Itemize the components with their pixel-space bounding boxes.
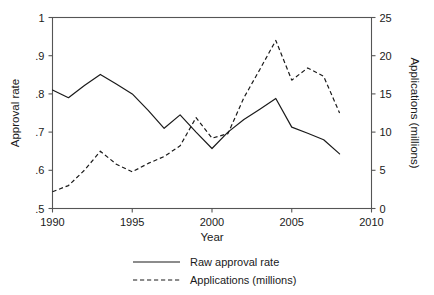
- legend-label-raw-approval-rate: Raw approval rate: [190, 256, 279, 268]
- y2-tick-label: 0: [380, 203, 386, 215]
- y2-tick-label: 15: [380, 88, 392, 100]
- y2-tick-label: 25: [380, 12, 392, 24]
- chart-figure: .5.6.7.8.91 0510152025 19901995200020052…: [0, 0, 434, 295]
- y2-axis-title: Applications (millions): [409, 57, 421, 168]
- x-tick-label: 1995: [120, 216, 144, 228]
- y2-tick-label: 5: [380, 164, 386, 176]
- y-axis-tick-labels: .5.6.7.8.91: [35, 12, 44, 215]
- line-chart: .5.6.7.8.91 0510152025 19901995200020052…: [0, 0, 434, 295]
- x-tick-label: 1990: [40, 216, 64, 228]
- y-tick-label: .6: [35, 164, 44, 176]
- y-tick-label: .9: [35, 50, 44, 62]
- y2-tick-label: 10: [380, 126, 392, 138]
- y2-axis-ticks: [372, 18, 376, 209]
- x-axis-title: Year: [200, 231, 223, 243]
- plot-frame: [53, 18, 372, 209]
- legend-label-applications: Applications (millions): [190, 274, 296, 286]
- x-tick-label: 2005: [280, 216, 304, 228]
- x-tick-label: 2000: [200, 216, 224, 228]
- x-axis-ticks: [53, 209, 372, 213]
- y-tick-label: .8: [35, 88, 44, 100]
- series-raw-approval-rate-line: [53, 74, 340, 153]
- y2-tick-label: 20: [380, 50, 392, 62]
- chart-legend: Raw approval rate Applications (millions…: [133, 256, 296, 286]
- y-tick-label: .7: [35, 126, 44, 138]
- x-axis-tick-labels: 19901995200020052010: [40, 216, 383, 228]
- y2-axis-tick-labels: 0510152025: [380, 12, 392, 215]
- y-tick-label: .5: [35, 203, 44, 215]
- y-axis-ticks: [49, 18, 53, 209]
- x-tick-label: 2010: [359, 216, 383, 228]
- y-tick-label: 1: [38, 12, 44, 24]
- y-axis-title: Approval rate: [9, 79, 21, 147]
- series-applications-line: [53, 40, 340, 191]
